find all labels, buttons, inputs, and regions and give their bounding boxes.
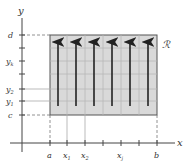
y-tick-d: d: [8, 31, 13, 40]
region-label: ℛ: [162, 39, 171, 50]
y-axis-label: y: [17, 5, 24, 16]
x-axis-label: x: [177, 137, 183, 148]
region-diagram: y x ℛ d yk y2 y1 c a x1 x2 xj b: [0, 0, 192, 166]
x-tick-x1: x1: [63, 151, 71, 161]
region-rectangle: [50, 35, 157, 115]
x-tick-b: b: [154, 151, 159, 160]
y-tick-c: c: [8, 111, 13, 120]
y-tick-y1: y1: [5, 97, 14, 107]
x-tick-xj: xj: [117, 151, 124, 162]
x-tick-a: a: [47, 151, 52, 160]
y-tick-yk: yk: [5, 57, 14, 67]
y-tick-y2: y2: [5, 85, 14, 95]
x-tick-x2: x2: [81, 151, 89, 161]
